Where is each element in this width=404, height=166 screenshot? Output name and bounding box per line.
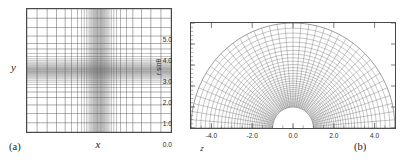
panel-b-ytick-label: 3.0 [152, 78, 172, 85]
figure-container: y x (a) 0.01.02.03.04.05.0 -4.0-2.00.02.… [0, 0, 404, 166]
panel-b-xtick-label: 4.0 [370, 132, 379, 139]
panel-a-ylabel: y [11, 61, 16, 73]
panel-b-ytick-label: 5.0 [152, 36, 172, 43]
cartesian-mesh-svg [27, 9, 171, 132]
panel-b-tag: (b) [354, 141, 366, 152]
panel-b-xtick-label: 0.0 [288, 132, 297, 139]
panel-b-xtick-label: 2.0 [329, 132, 338, 139]
panel-b-ytick-label: 2.0 [152, 99, 172, 106]
panel-a-plot-area [26, 8, 172, 133]
panel-b-xtick-label: -2.0 [247, 132, 258, 139]
panel-b-xtick-label: -4.0 [206, 132, 217, 139]
panel-b-ytick-label: 1.0 [152, 120, 172, 127]
panel-b-ylabel: r sinθ [155, 59, 162, 75]
panel-b-xlabel: z [0, 145, 404, 152]
polar-mesh-svg [191, 23, 395, 128]
panel-b-plot-area [190, 22, 396, 129]
